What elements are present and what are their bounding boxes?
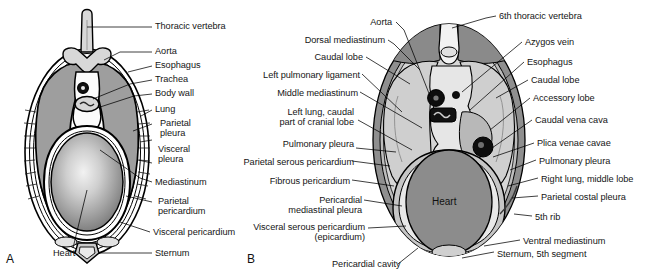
panel-b-heart-text: Heart xyxy=(432,196,456,207)
panel-a-thoracic-vertebra xyxy=(63,10,111,75)
label-b-left-lung-cranial-lobe: Left lung, caudal part of cranial lobe xyxy=(238,107,354,128)
label-b-parietal-costal-pleura: Parietal costal pleura xyxy=(541,192,626,202)
label-b-ventral-mediastinum: Ventral mediastinum xyxy=(523,236,605,246)
label-b-esophagus: Esophagus xyxy=(527,57,573,67)
label-b-visceral-serous-pericardium: Visceral serous pericardium (epicardium) xyxy=(215,222,365,243)
panel-b-sternum-5th-segment xyxy=(432,245,466,259)
label-a-parietal-pericardium: Parietal pericardium xyxy=(158,196,205,217)
label-a-parietal-pleura: Parietal pleura xyxy=(160,118,191,139)
label-b-fibrous-pericardium: Fibrous pericardium xyxy=(228,176,350,186)
label-b-pericardial-mediastinal-pleura: Pericardial mediastinal pleura xyxy=(238,195,362,216)
panel-b-dorsal-musculature xyxy=(380,22,440,64)
label-b-pulmonary-pleura-right: Pulmonary pleura xyxy=(539,156,610,166)
panel-b-azygos-vein xyxy=(452,91,459,98)
label-b-middle-mediastinum: Middle mediastinum xyxy=(228,88,358,98)
label-a-heart: Heart xyxy=(53,248,75,258)
label-b-right-lung-middle-lobe: Right lung, middle lobe xyxy=(541,174,633,184)
figure-thorax-cross-sections: A Thoracic vertebra Aorta Esophagus Trac… xyxy=(0,0,659,276)
label-a-lung: Lung xyxy=(155,104,175,114)
label-b-aorta: Aorta xyxy=(300,17,392,27)
label-a-sternum: Sternum xyxy=(155,248,189,258)
label-a-body-wall: Body wall xyxy=(155,88,194,98)
label-b-pulmonary-pleura-left: Pulmonary pleura xyxy=(245,139,354,149)
panel-a-heart xyxy=(51,133,123,231)
label-a-trachea: Trachea xyxy=(155,74,188,84)
label-b-6th-thoracic-vertebra: 6th thoracic vertebra xyxy=(499,11,582,21)
panel-a-graphic xyxy=(24,10,152,264)
label-b-accessory-lobe: Accessory lobe xyxy=(533,93,595,103)
label-b-5th-rib: 5th rib xyxy=(535,212,560,222)
panel-b-esophagus xyxy=(430,108,456,122)
label-a-mediastinum: Mediastinum xyxy=(155,177,207,187)
label-b-sternum-5th-segment: Sternum, 5th segment xyxy=(497,249,586,259)
label-a-esophagus: Esophagus xyxy=(155,60,201,70)
panel-a-letter: A xyxy=(6,252,14,266)
label-b-pericardial-cavity: Pericardial cavity xyxy=(332,259,401,269)
label-b-caudal-lobe-left: Caudal lobe xyxy=(245,52,363,62)
panel-a-sternum xyxy=(75,243,99,263)
label-b-parietal-serous-pericardium: Parietal serous pericardium xyxy=(200,157,354,167)
label-a-visceral-pleura: Visceral pleura xyxy=(158,144,190,165)
panel-b-letter: B xyxy=(247,252,255,266)
label-a-thoracic-vertebra: Thoracic vertebra xyxy=(155,21,226,31)
label-b-dorsal-mediastinum: Dorsal mediastinum xyxy=(245,35,385,45)
label-b-left-pulmonary-ligament: Left pulmonary ligament xyxy=(215,70,360,80)
panel-b-6th-thoracic-vertebra xyxy=(439,22,459,64)
label-b-plica-venae-cavae: Plica venae cavae xyxy=(537,138,611,148)
label-b-azygos-vein: Azygos vein xyxy=(525,37,574,47)
panel-b-graphic xyxy=(352,16,538,264)
label-b-caudal-vena-cava: Caudal vena cava xyxy=(535,115,608,125)
label-a-aorta: Aorta xyxy=(155,46,177,56)
label-b-caudal-lobe-right: Caudal lobe xyxy=(531,75,580,85)
